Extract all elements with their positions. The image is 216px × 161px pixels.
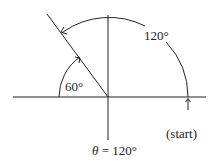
start-label: (start) <box>166 127 197 140</box>
big-arc-label: 120° <box>144 29 169 42</box>
theta-equation: θ = 120° <box>92 144 137 157</box>
theta-value: = 120° <box>98 143 137 158</box>
big-arc-lower <box>166 42 188 97</box>
small-arc-label: 60° <box>65 80 83 93</box>
angle-diagram: 120° 60° (start) θ = 120° <box>0 0 216 161</box>
big-arc-upper <box>63 17 145 32</box>
